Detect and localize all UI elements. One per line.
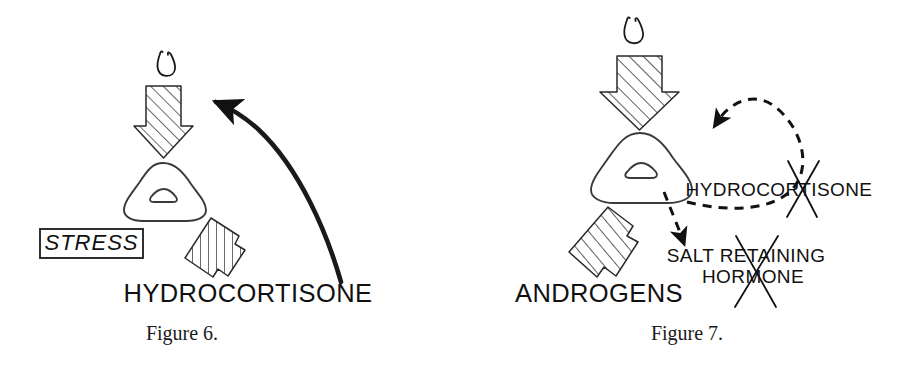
adrenal-gland-icon <box>124 163 206 221</box>
hatched-down-left-arrow-icon <box>569 207 638 277</box>
hydrocortisone-label: HYDROCORTISONE <box>124 279 373 307</box>
figure-6-caption: Figure 6. <box>146 322 218 345</box>
figure-board: STRESS HYDROCORTISONE Figure 6. <box>0 0 918 365</box>
inhibition-bar-icon <box>188 91 206 110</box>
figure-7-panel: HYDROCORTISONE SALT RETAINING HORMONE AN… <box>459 0 918 365</box>
stress-label-box: STRESS <box>40 229 143 258</box>
adrenal-gland-icon <box>591 133 692 203</box>
hatched-down-arrow-icon <box>134 86 193 158</box>
pituitary-gland-icon <box>624 17 643 43</box>
hatched-down-left-arrow-icon <box>185 218 245 277</box>
figure-6-panel: STRESS HYDROCORTISONE Figure 6. <box>0 0 459 365</box>
hydrocortisone-label: HYDROCORTISONE <box>686 179 873 200</box>
stress-label: STRESS <box>44 230 138 255</box>
hatched-down-arrow-icon <box>600 56 679 130</box>
pituitary-gland-icon <box>157 51 175 75</box>
figure-7-caption: Figure 7. <box>651 322 723 345</box>
androgens-label: ANDROGENS <box>515 279 683 307</box>
